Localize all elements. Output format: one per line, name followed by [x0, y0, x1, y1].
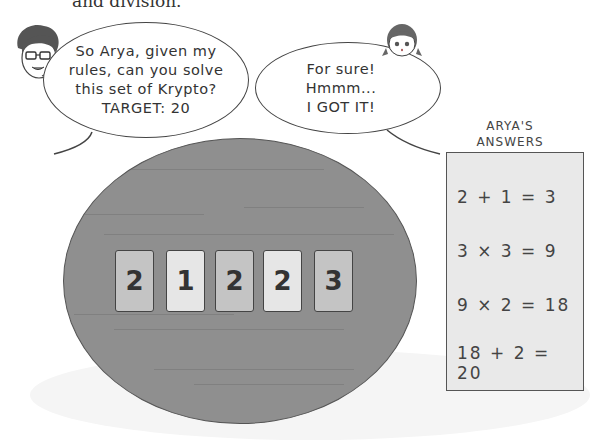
answer-step: 9 × 2 = 18 — [457, 295, 570, 315]
krypto-card: 2 — [215, 250, 254, 312]
card-value: 3 — [324, 266, 342, 296]
answers-title: ARYA'S ANSWERS — [460, 118, 560, 150]
arya-avatar-icon — [378, 18, 426, 66]
krypto-card: 2 — [115, 250, 154, 312]
card-value: 1 — [176, 266, 194, 296]
card-value: 2 — [273, 266, 291, 296]
answer-step: 18 + 2 = 20 — [457, 343, 583, 383]
answers-box: 2 + 1 = 3 3 × 3 = 9 9 × 2 = 18 18 + 2 = … — [446, 152, 584, 391]
answer-step: 3 × 3 = 9 — [457, 241, 558, 261]
krypto-card: 1 — [166, 250, 205, 312]
answer-step: 2 + 1 = 3 — [457, 187, 558, 207]
speech-line: Hmmm... — [306, 79, 377, 98]
answers-title-line: ANSWERS — [460, 134, 560, 150]
krypto-card: 2 — [263, 250, 302, 312]
arya-bubble-tail — [385, 128, 445, 158]
speech-line: I GOT IT! — [306, 98, 377, 117]
speech-line: For sure! — [306, 60, 377, 79]
teacher-bubble-tail — [50, 130, 100, 160]
speech-line: TARGET: 20 — [69, 99, 224, 118]
teacher-speech-bubble: So Arya, given my rules, can you solve t… — [43, 22, 249, 138]
caption-text-fragment: and division. — [72, 0, 181, 11]
speech-line: this set of Krypto? — [69, 80, 224, 99]
speech-line: rules, can you solve — [69, 61, 224, 80]
krypto-card: 3 — [314, 250, 353, 312]
answers-title-line: ARYA'S — [460, 118, 560, 134]
speech-line: So Arya, given my — [69, 42, 224, 61]
card-value: 2 — [225, 266, 243, 296]
card-value: 2 — [125, 266, 143, 296]
